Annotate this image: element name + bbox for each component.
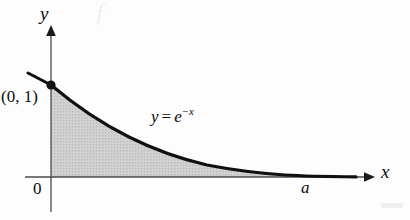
equation-exponent: −x	[182, 105, 194, 117]
equation-lhs: y	[151, 107, 159, 126]
x-axis-label: x	[381, 162, 389, 181]
point-marker-0-1	[46, 80, 55, 89]
x-axis-arrowhead	[364, 172, 375, 182]
upper-limit-label-a: a	[301, 179, 310, 196]
point-coordinate-label: (0, 1)	[1, 88, 38, 105]
y-axis-arrowhead	[46, 25, 56, 36]
plot-canvas	[0, 0, 410, 220]
curve-equation-label: y=e−x	[151, 108, 194, 125]
y-axis-label: y	[40, 4, 48, 23]
figure-exponential-decay: y x (0, 1) 0 a y=e−x ƒ	[0, 0, 410, 220]
equation-equals-sign: =	[162, 107, 172, 126]
scan-artifact-squiggle: ƒ	[94, 0, 107, 28]
equation-base: e	[174, 107, 182, 126]
scan-artifact-corner-mark	[381, 203, 403, 208]
shaded-region-under-curve	[51, 85, 308, 177]
origin-label: 0	[33, 180, 42, 197]
